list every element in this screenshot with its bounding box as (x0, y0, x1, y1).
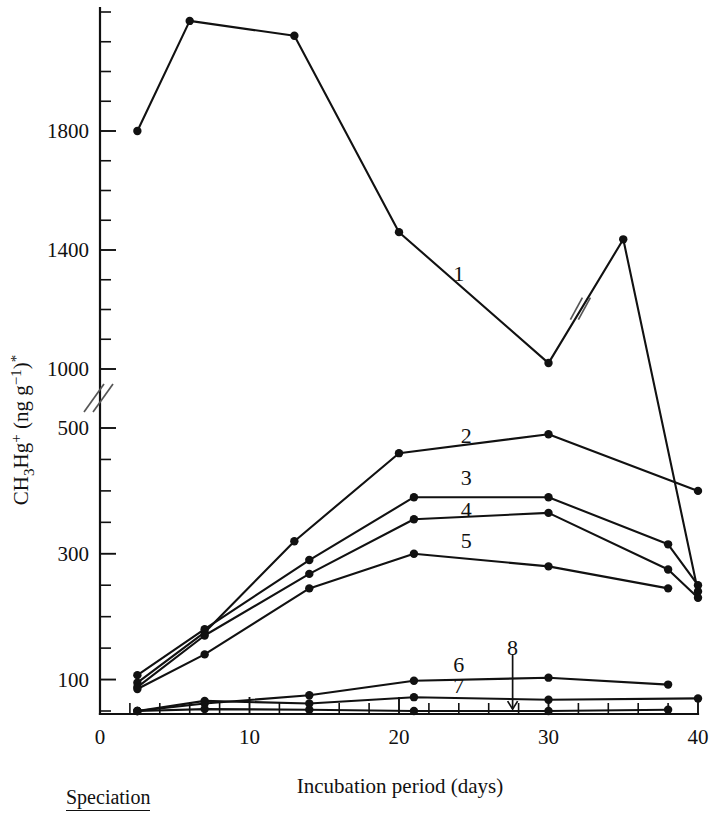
x-axis-title: Incubation period (days) (297, 774, 503, 798)
series-line-3 (137, 497, 698, 675)
series-label-2: 2 (461, 423, 472, 448)
data-point-1-4 (544, 359, 552, 367)
data-point-2-4 (544, 430, 552, 438)
data-point-5-0 (133, 685, 141, 693)
y-tick-label-1800: 1800 (47, 119, 89, 143)
axis-ticks (100, 12, 698, 714)
y-title-charge: + (8, 434, 24, 442)
data-point-8-4 (544, 707, 552, 715)
data-point-6-5 (664, 680, 672, 688)
y-axis-title-text: CH3Hg+ (ng g−1)* (8, 355, 37, 505)
data-series (137, 21, 698, 711)
data-point-3-5 (664, 540, 672, 548)
data-point-8-0 (133, 707, 141, 715)
data-point-7-3 (410, 693, 418, 701)
data-point-7-5 (694, 694, 702, 702)
series-labels: 12345678 (453, 261, 518, 698)
data-point-6-4 (544, 673, 552, 681)
figure-caption: Speciation (66, 786, 150, 809)
data-point-7-1 (200, 697, 208, 705)
series-label-3: 3 (461, 465, 472, 490)
series-label-5: 5 (461, 528, 472, 553)
data-point-7-4 (544, 695, 552, 703)
data-point-8-3 (410, 707, 418, 715)
data-point-2-5 (694, 487, 702, 495)
x-tick-label-30: 30 (538, 725, 559, 749)
y-axis-title: CH3Hg+ (ng g−1)* (8, 355, 37, 505)
x-tick-label-0: 0 (95, 725, 106, 749)
line-chart: 100300500100014001800010203040 12345678 … (0, 0, 718, 826)
series-label-1: 1 (453, 261, 464, 286)
caption-text: Speciation (66, 786, 150, 811)
y-tick-label-1400: 1400 (47, 238, 89, 262)
axes (100, 8, 698, 714)
y-title-sub3: 3 (21, 468, 37, 476)
data-point-1-2 (290, 32, 298, 40)
data-point-2-2 (290, 537, 298, 545)
y-axis-break-slash (93, 384, 113, 412)
data-point-3-4 (544, 493, 552, 501)
data-point-1-1 (186, 17, 194, 25)
y-title-exp: −1 (8, 369, 24, 385)
data-point-1-3 (395, 228, 403, 236)
y-title-hg: Hg (9, 442, 33, 468)
data-point-8-5 (664, 706, 672, 714)
data-point-1-5 (619, 235, 627, 243)
data-point-markers (133, 17, 702, 715)
data-point-5-2 (305, 584, 313, 592)
y-title-star: * (8, 355, 24, 363)
data-point-8-2 (305, 706, 313, 714)
data-point-4-4 (544, 509, 552, 517)
data-point-4-2 (305, 570, 313, 578)
series-line-2 (137, 434, 698, 682)
x-tick-label-20: 20 (389, 725, 410, 749)
data-point-6-2 (305, 691, 313, 699)
y-tick-label-300: 300 (58, 542, 90, 566)
data-point-1-0 (133, 127, 141, 135)
data-point-5-3 (410, 550, 418, 558)
data-point-2-3 (395, 449, 403, 457)
data-point-4-1 (200, 631, 208, 639)
x-tick-label-10: 10 (239, 725, 260, 749)
axis-tick-labels: 100300500100014001800010203040 (47, 119, 709, 749)
series-line-1 (137, 21, 698, 592)
series-label-4: 4 (461, 497, 472, 522)
x-tick-label-40: 40 (688, 725, 709, 749)
y-title-species: CH (9, 476, 33, 505)
data-point-3-6 (694, 581, 702, 589)
data-point-5-1 (200, 650, 208, 658)
data-point-5-5 (664, 584, 672, 592)
data-point-3-2 (305, 556, 313, 564)
y-title-close: ) (9, 362, 33, 369)
data-point-3-3 (410, 493, 418, 501)
y-tick-label-1000: 1000 (47, 357, 89, 381)
data-point-4-5 (664, 565, 672, 573)
y-tick-label-500: 500 (58, 416, 90, 440)
y-tick-label-100: 100 (58, 668, 90, 692)
y-title-open: (ng g (9, 385, 33, 434)
data-point-4-3 (410, 515, 418, 523)
series-line-8 (137, 709, 668, 711)
data-point-8-1 (200, 705, 208, 713)
data-point-4-6 (694, 594, 702, 602)
series-line-6 (137, 678, 668, 711)
data-point-5-4 (544, 562, 552, 570)
data-point-6-3 (410, 677, 418, 685)
series-line-4 (137, 513, 698, 687)
data-point-3-0 (133, 671, 141, 679)
figure-container: 100300500100014001800010203040 12345678 … (0, 0, 718, 826)
series-label-7: 7 (453, 673, 464, 698)
